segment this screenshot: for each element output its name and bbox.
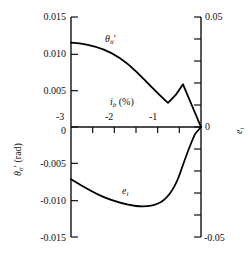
x-tick-label-neg3: -3 bbox=[56, 112, 64, 122]
x-axis-ticks bbox=[93, 127, 180, 133]
x-tick-label-neg1: -1 bbox=[149, 112, 157, 122]
right-axis-title-base: e bbox=[233, 130, 244, 134]
left-axis-title-base: θ bbox=[12, 171, 23, 176]
left-tick-label-zero: 0 bbox=[2, 126, 66, 136]
left-axis-title-unit: (rad) bbox=[12, 143, 23, 162]
curve-label-theta-prime: ′ bbox=[114, 33, 116, 44]
left-tick-label-1: 0.010 bbox=[2, 49, 66, 59]
left-axis-title-sub: ti bbox=[17, 167, 25, 171]
right-tick-label-zero: 0 bbox=[205, 122, 210, 132]
curve-label-e-sub: i bbox=[126, 190, 128, 198]
left-tick-label-6: -0.015 bbox=[2, 233, 66, 243]
left-axis-title-prime: ′ bbox=[12, 165, 23, 167]
curve-label-theta-ti: θti′ bbox=[105, 34, 116, 47]
right-tick-label-bottom: -0.05 bbox=[204, 233, 225, 243]
x-axis-title: ib (%) bbox=[110, 96, 134, 111]
right-tick-label-top: 0.05 bbox=[205, 12, 223, 22]
left-axis-title: θti′ (rad) bbox=[12, 143, 27, 176]
right-axis-title: ei bbox=[233, 128, 248, 134]
left-axis-ticks bbox=[71, 17, 78, 237]
left-tick-label-2: 0.005 bbox=[2, 86, 66, 96]
left-tick-label-0: 0.015 bbox=[2, 12, 66, 22]
curve-theta-ti bbox=[71, 43, 201, 127]
curve-label-e-i: ei bbox=[122, 186, 128, 199]
right-axis-title-sub: i bbox=[238, 128, 246, 130]
x-axis-title-unit: (%) bbox=[119, 96, 134, 107]
left-tick-label-5: -0.010 bbox=[2, 196, 66, 206]
x-tick-label-neg2: -2 bbox=[105, 112, 113, 122]
x-axis-title-sub: b bbox=[113, 101, 117, 109]
curve-e-i bbox=[71, 127, 201, 206]
chart-figure: 0.015 0.010 0.005 0 -0.005 -0.010 -0.015… bbox=[0, 0, 251, 254]
